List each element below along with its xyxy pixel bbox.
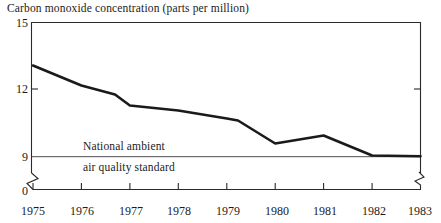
plot-area [0, 0, 441, 223]
x-axis-break-icon [414, 172, 424, 190]
chart-figure: Carbon monoxide concentration (parts per… [0, 0, 441, 223]
x-axis-ticks [33, 183, 372, 190]
data-series-line [33, 66, 421, 157]
